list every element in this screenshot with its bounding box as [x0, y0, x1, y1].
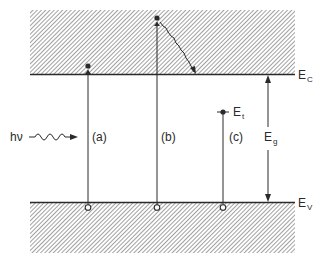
trap-label-sub: t [242, 112, 244, 121]
transition-a-label-text: (a) [92, 130, 107, 144]
trap-level-label: Et [233, 106, 244, 118]
transition-b-label: (b) [161, 131, 176, 143]
transition-b-label-text: (b) [161, 130, 176, 144]
transition-c-label: (c) [229, 131, 243, 143]
trap-label-main: E [233, 105, 241, 119]
valence-band-label: EV [298, 197, 312, 209]
hole-icon [220, 205, 226, 211]
band-diagram: hν (a) (b) (c) Et Eg EC EV [0, 0, 325, 262]
electron-icon [154, 15, 159, 20]
transition-c-label-text: (c) [229, 130, 243, 144]
ev-label-main: E [298, 196, 306, 210]
ec-label-sub: C [307, 75, 313, 84]
hole-icon [85, 205, 91, 211]
gap-label-main: E [264, 130, 272, 144]
electron-icon [85, 63, 90, 68]
electron-icon [220, 109, 225, 114]
transition-a [85, 63, 91, 210]
ev-label-sub: V [307, 203, 312, 212]
conduction-band-region [30, 10, 295, 74]
hole-icon [154, 205, 160, 211]
gap-label-sub: g [273, 137, 277, 146]
photon-label-text: hν [10, 130, 23, 144]
band-gap-label: Eg [264, 131, 277, 143]
transition-a-label: (a) [92, 131, 107, 143]
ec-label-main: E [298, 68, 306, 82]
photon-label: hν [10, 131, 23, 143]
photon-wave-icon [29, 134, 78, 140]
transition-c [217, 109, 229, 210]
valence-band-region [30, 203, 295, 253]
conduction-band-label: EC [298, 69, 313, 81]
